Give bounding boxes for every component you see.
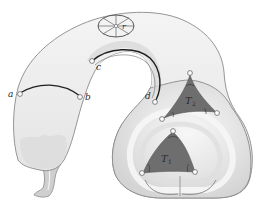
triangle-t2-subscript: 2 (192, 100, 196, 107)
triangle-t1-subscript: 1 (168, 158, 172, 165)
vertex-point (215, 111, 220, 116)
vertex-point (160, 117, 165, 122)
vertex-point (140, 171, 145, 176)
geodesic-disk: r (98, 15, 134, 37)
vertex-point (188, 71, 193, 76)
surface-diagram: r T 2 T 1 a b c (0, 0, 263, 220)
vertex-point (193, 170, 198, 175)
point-b-label: b (85, 92, 91, 102)
point-c-label: c (96, 62, 101, 72)
vertex-point (171, 129, 176, 134)
point-a-label: a (8, 89, 13, 99)
point-d-label: d (145, 91, 151, 101)
